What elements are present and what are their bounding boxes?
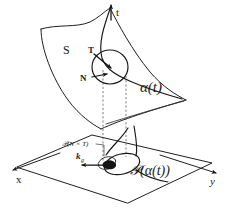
- label-axis-y: y: [209, 175, 215, 187]
- label-normal-n: N: [80, 73, 87, 83]
- label-geodesic-curvature-sub: g: [81, 157, 84, 163]
- label-tangent-t: T: [88, 45, 94, 55]
- label-alpha-curve: α(t): [140, 79, 162, 96]
- label-projected-frame: 𝒫(N × T): [62, 140, 89, 148]
- surface-edge-top-left: [41, 8, 110, 29]
- projection-base-point: [103, 160, 117, 169]
- descent-curve-path-2: [134, 126, 137, 156]
- label-axis-x: x: [16, 173, 22, 185]
- descent-curve-path: [106, 128, 128, 155]
- label-geodesic-curvature-group: k g: [76, 151, 84, 163]
- coordinate-axes: [13, 5, 216, 173]
- surface-edge-left: [41, 29, 101, 129]
- figure-canvas: t S T N α(t) 𝒫(α(t)) 𝒫(N × T) k g x y: [0, 0, 231, 214]
- geometry-diagram-svg: t S T N α(t) 𝒫(α(t)) 𝒫(N × T) k g x y: [0, 0, 231, 214]
- tangent-vector-arrow: [94, 54, 111, 68]
- label-t-axis: t: [116, 6, 119, 18]
- descent-curve: [106, 126, 137, 156]
- label-surface-s: S: [63, 43, 70, 57]
- x-axis-line: [13, 153, 60, 170]
- surface-patch: [41, 8, 186, 129]
- label-projected-curve: 𝒫(α(t)): [130, 163, 170, 179]
